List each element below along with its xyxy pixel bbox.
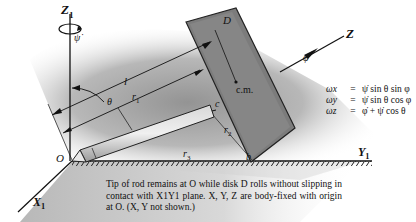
equation-omega-y: ωy = ψ̇ sin θ cos φ: [326, 95, 411, 106]
equation-omega-x: ωx = ψ̇ sin θ sin φ: [326, 84, 411, 95]
point-c-label: c: [215, 99, 219, 109]
y1-axis-ground: [72, 161, 372, 166]
equation-omega-z: ωz = φ̇ + ψ̇ cos θ: [326, 106, 411, 117]
psi-dot-label: ψ̇: [74, 33, 80, 43]
disk-d-label: D: [223, 15, 231, 26]
z1-axis-label: Z1: [61, 3, 74, 20]
r1-label: r1: [132, 92, 139, 105]
r3-label: r3: [183, 149, 190, 162]
x1-axis-label: X1: [33, 196, 45, 212]
length-l-label: l: [124, 76, 127, 87]
rolling-disk-diagram: Z1 ψ̇ Z φ̇ D c.m. l θ r1 c r2 r3 b O Y1 …: [0, 0, 416, 222]
origin-o-label: O: [56, 153, 64, 164]
theta-label: θ: [107, 97, 112, 107]
angular-velocity-equations: ωx = ψ̇ sin θ sin φ ωy = ψ̇ sin θ cos φ …: [326, 84, 411, 117]
phi-dot-label: φ̇: [303, 53, 309, 63]
y1-axis-label: Y1: [358, 146, 370, 162]
center-of-mass-label: c.m.: [236, 85, 253, 95]
point-b-label: b: [246, 152, 251, 162]
z-body-axis-label: Z: [346, 27, 354, 40]
figure-caption: Tip of rod remains at O while disk D rol…: [106, 179, 342, 214]
r2-label: r2: [224, 125, 231, 138]
